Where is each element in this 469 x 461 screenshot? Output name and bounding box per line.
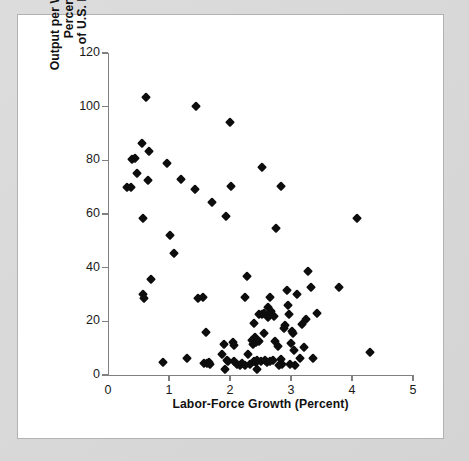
figure-card [17, 14, 444, 439]
figure-background: 020406080100120 012345 Labor-Force Growt… [0, 0, 469, 461]
